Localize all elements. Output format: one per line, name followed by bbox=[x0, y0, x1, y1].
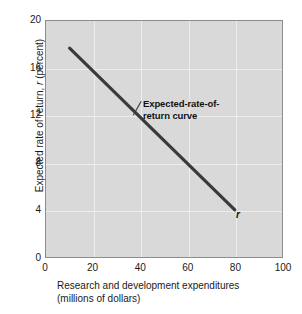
y-axis-title-prefix: Expected rate of return, bbox=[34, 85, 45, 192]
y-axis-title: Expected rate of return, r (percent) bbox=[34, 0, 45, 235]
y-axis-title-symbol: r bbox=[34, 82, 45, 85]
curve-annotation-line2: return curve bbox=[143, 110, 219, 122]
x-axis-title: Research and development expenditures (m… bbox=[57, 279, 239, 305]
expected-rate-of-return-chart: Expected-rate-of- return curve r 20 16 1… bbox=[0, 0, 302, 314]
curve-svg bbox=[46, 21, 282, 257]
expected-rate-of-return-curve bbox=[70, 48, 235, 210]
x-tick-label: 60 bbox=[168, 262, 208, 273]
plot-area: Expected-rate-of- return curve r bbox=[45, 20, 283, 258]
curve-annotation: Expected-rate-of- return curve bbox=[143, 98, 219, 121]
x-axis-title-line2: (millions of dollars) bbox=[57, 292, 239, 305]
curve-end-symbol: r bbox=[236, 209, 240, 220]
x-tick-label: 100 bbox=[263, 262, 302, 273]
x-tick-label: 80 bbox=[215, 262, 255, 273]
x-axis-title-line1: Research and development expenditures bbox=[57, 279, 239, 292]
curve-annotation-line1: Expected-rate-of- bbox=[143, 98, 219, 110]
x-axis-tick-labels: 0 20 40 60 80 100 bbox=[45, 262, 283, 276]
x-tick-label: 40 bbox=[120, 262, 160, 273]
y-axis-title-suffix: (percent) bbox=[34, 39, 45, 82]
x-tick-label: 20 bbox=[73, 262, 113, 273]
x-tick-label: 0 bbox=[25, 262, 65, 273]
